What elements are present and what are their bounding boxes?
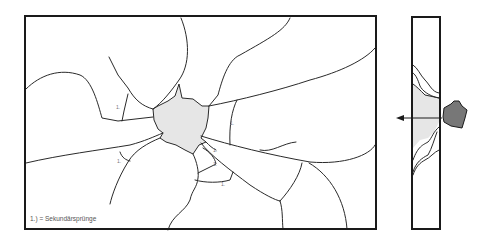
fracture-diagram: 1. 1. 1. 1. 1. 1. bbox=[0, 0, 494, 243]
secondary-marker: 1. bbox=[117, 158, 121, 164]
secondary-marker: 1. bbox=[116, 104, 120, 110]
front-view-panel: 1. 1. 1. 1. 1. 1. bbox=[25, 16, 376, 230]
secondary-marker: 1. bbox=[213, 161, 217, 167]
side-view-panel bbox=[396, 17, 467, 229]
arrow-head-icon bbox=[396, 115, 404, 121]
secondary-marker: 1. bbox=[221, 181, 225, 187]
secondary-marker: 1. bbox=[213, 147, 217, 153]
secondary-marker: 1. bbox=[230, 120, 234, 126]
projectile-stone bbox=[443, 101, 467, 128]
legend-text: 1.) = Sekundärsprünge bbox=[30, 215, 96, 222]
